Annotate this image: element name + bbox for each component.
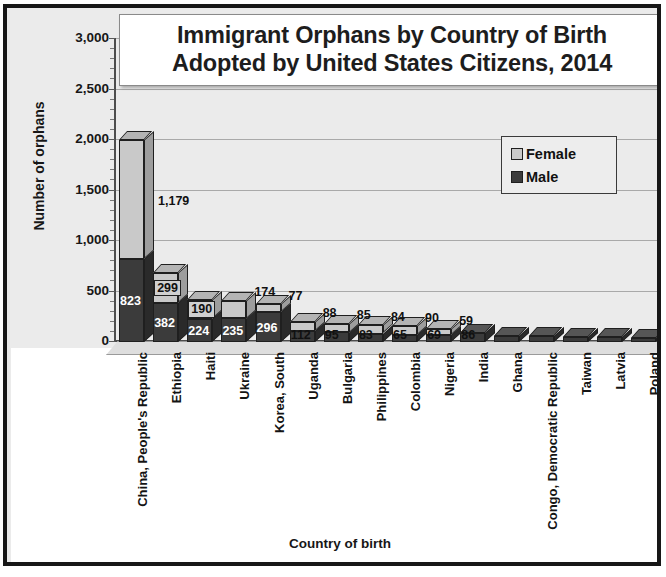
chart-plot-background: 3,0002,5002,0001,5001,0005000 8231,17938…: [7, 8, 657, 562]
category-label: India: [476, 352, 491, 382]
legend-swatch-male-icon: [511, 171, 523, 183]
chart-frame: 3,0002,5002,0001,5001,0005000 8231,17938…: [3, 4, 661, 566]
data-label-male: 235: [222, 325, 243, 338]
y-tick-minor: [110, 159, 114, 160]
y-tick-minor: [110, 68, 114, 69]
category-label: Uganda: [306, 352, 321, 400]
y-tick-minor: [110, 270, 114, 271]
y-tick-label: 1,500: [49, 182, 109, 197]
bar-segment-male: [529, 336, 554, 342]
data-label-male: 83: [359, 329, 373, 342]
y-tick-minor: [110, 109, 114, 110]
category-label: Congo, Democratic Republic: [545, 352, 560, 530]
data-label-male: 382: [154, 317, 175, 330]
bar-1: [119, 140, 144, 342]
bar-14: [563, 337, 588, 342]
category-label: Nigeria: [442, 352, 457, 396]
y-tick-minor: [110, 311, 114, 312]
y-tick-minor: [110, 331, 114, 332]
data-label-female: 77: [289, 290, 303, 303]
x-axis-category-labels: China, People's RepublicEthiopiaHaitiUkr…: [115, 352, 657, 552]
y-tick-minor: [110, 230, 114, 231]
y-tick-minor: [110, 119, 114, 120]
legend-item-female: Female: [511, 142, 616, 165]
data-label-female: 88: [323, 307, 337, 320]
y-tick-label: 500: [49, 283, 109, 298]
data-label-female: 190: [188, 301, 215, 318]
category-label: Colombia: [408, 352, 423, 411]
y-tick-minor: [110, 149, 114, 150]
category-label: China, People's Republic: [135, 352, 150, 507]
data-label-male: 65: [393, 329, 407, 342]
category-label: Haiti: [203, 352, 218, 380]
chart-legend: Female Male: [501, 136, 617, 194]
y-tick-minor: [110, 179, 114, 180]
y-tick-minor: [110, 129, 114, 130]
category-label: Philippines: [374, 352, 389, 421]
y-tick-minor: [110, 169, 114, 170]
bar-segment-male: [563, 337, 588, 342]
bar-segment-female: [256, 304, 281, 312]
bar-side-female: [144, 131, 154, 259]
x-axis-title: Country of birth: [7, 536, 657, 551]
y-tick-minor: [110, 200, 114, 201]
y-axis-tick-labels: 3,0002,5002,0001,5001,0005000: [45, 38, 109, 342]
legend-item-male: Male: [511, 165, 616, 188]
bar-segment-female: [119, 140, 144, 259]
category-label: Bulgaria: [340, 352, 355, 404]
legend-swatch-female-icon: [511, 148, 523, 160]
bar-segment-female: [221, 301, 246, 319]
bar-16: [631, 338, 656, 342]
chart-title-line-1: Immigrant Orphans by Country of Birth: [177, 22, 607, 50]
chart-title-line-2: Adopted by United States Citizens, 2014: [172, 50, 612, 78]
data-label-female: 1,179: [158, 195, 189, 208]
y-tick-minor: [110, 48, 114, 49]
bar-segment-male: [597, 337, 622, 342]
data-label-male: 296: [257, 322, 278, 335]
y-tick-minor: [110, 220, 114, 221]
category-label: Ghana: [510, 352, 525, 392]
data-label-female: 59: [459, 315, 473, 328]
y-tick-label: 2,000: [49, 131, 109, 146]
data-label-female: 90: [425, 312, 439, 325]
data-label-female: 299: [154, 280, 181, 297]
y-tick-minor: [110, 280, 114, 281]
data-label-female: 84: [391, 311, 405, 324]
category-label: Taiwan: [579, 352, 594, 395]
category-label: Ukraine: [237, 352, 252, 400]
data-label-female: 174: [254, 286, 275, 299]
bar-12: [494, 336, 519, 342]
bar-segment-male: [631, 338, 656, 342]
bar-13: [529, 336, 554, 342]
bar-segment-male: [494, 336, 519, 342]
y-tick-label: 0: [49, 333, 109, 348]
y-tick-minor: [110, 321, 114, 322]
data-label-male: 112: [291, 329, 311, 342]
data-label-male: 69: [427, 329, 441, 342]
y-tick-label: 2,500: [49, 81, 109, 96]
category-label: Korea, South: [272, 352, 287, 433]
y-tick-minor: [110, 78, 114, 79]
y-tick-minor: [110, 99, 114, 100]
category-label: Latvia: [613, 352, 628, 390]
y-tick-minor: [110, 250, 114, 251]
y-tick-label: 3,000: [49, 30, 109, 45]
chart-title-box: Immigrant Orphans by Country of Birth Ad…: [119, 14, 657, 86]
bar-15: [597, 337, 622, 342]
y-axis-title: Number of orphans: [31, 71, 47, 261]
data-label-male: 224: [188, 325, 209, 338]
y-tick-minor: [110, 260, 114, 261]
y-tick-label: 1,000: [49, 232, 109, 247]
chart-screenshot: 3,0002,5002,0001,5001,0005000 8231,17938…: [0, 0, 666, 577]
bar-top-face: [631, 329, 657, 338]
category-label: Ethiopia: [169, 352, 184, 403]
legend-label-male: Male: [526, 169, 558, 185]
data-label-male: 95: [325, 329, 339, 342]
category-label: Poland: [647, 352, 657, 395]
y-tick-minor: [110, 301, 114, 302]
data-label-male: 823: [120, 295, 141, 308]
y-tick-minor: [110, 210, 114, 211]
data-label-female: 85: [357, 309, 371, 322]
y-tick-minor: [110, 58, 114, 59]
data-label-male: 86: [461, 329, 475, 342]
